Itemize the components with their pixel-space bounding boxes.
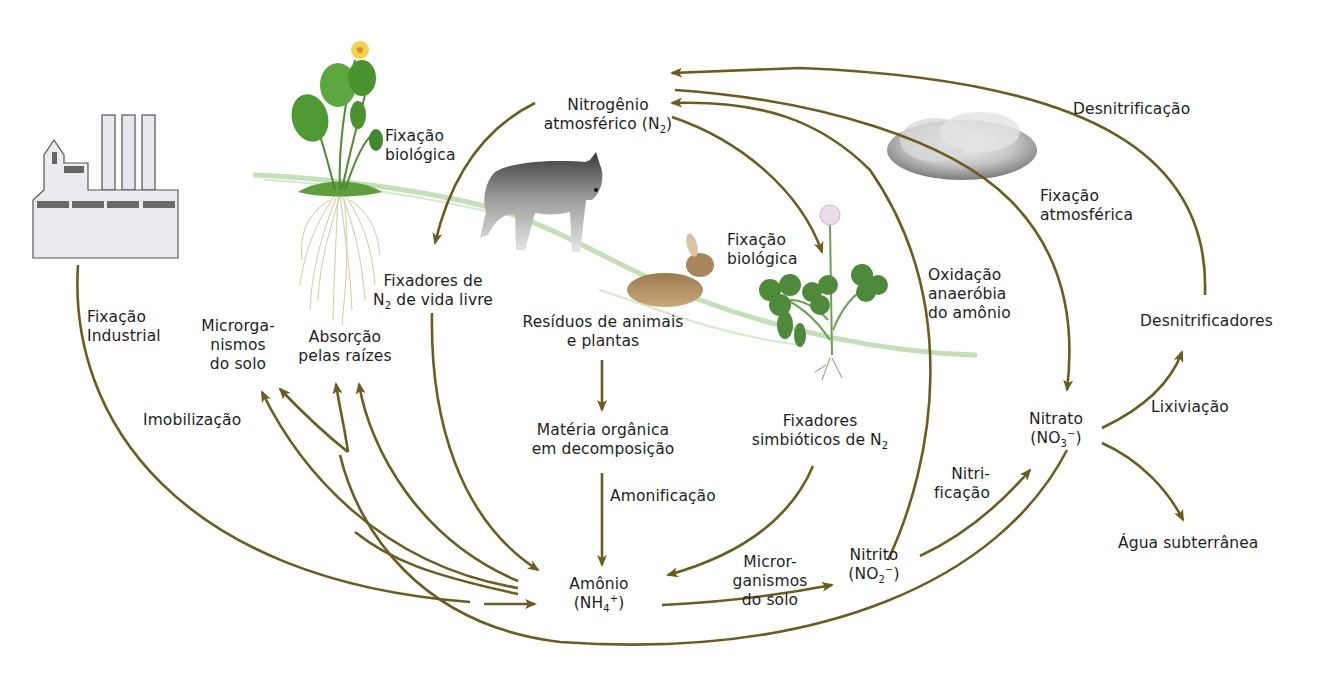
- node-residues: Resíduos de animais e plantas: [505, 313, 701, 351]
- rabbit: [627, 232, 714, 307]
- factory-icon: [33, 115, 178, 258]
- node-denitrifiers: Desnitrificadores: [1140, 312, 1273, 331]
- node-organic-matter: Matéria orgânica em decomposição: [515, 421, 691, 459]
- process-ammonification: Amonificação: [610, 487, 716, 506]
- arrow-groundwater: [1102, 443, 1183, 520]
- node-root-absorption: Absorção pelas raízes: [290, 328, 400, 366]
- node-nitrite: Nitrito (NO2−): [838, 546, 910, 584]
- node-groundwater: Água subterrânea: [1118, 534, 1258, 553]
- process-industrial-fixation: Fixação Industrial: [87, 308, 161, 346]
- node-symbiotic-fixers: Fixadores simbióticos de N2: [735, 412, 905, 450]
- process-biological-fixation-clover: Fixação biológica: [727, 231, 797, 269]
- wolf: [480, 152, 602, 252]
- arrow-immobilization-1: [262, 392, 518, 588]
- node-soil-microorganisms-left: Microrga- nismos do solo: [188, 317, 288, 374]
- process-nitrification: Nitri- ficação: [920, 465, 990, 503]
- process-atmospheric-fixation: Fixação atmosférica: [1040, 187, 1133, 225]
- process-immobilization: Imobilização: [143, 411, 241, 430]
- node-nitrate: Nitrato (NO3−): [1020, 410, 1092, 448]
- cloud: [887, 112, 1037, 180]
- node-free-living-fixers: Fixadores de N2 de vida livre: [368, 272, 498, 310]
- process-soil-microorganisms-mid: Micror- ganismos do solo: [730, 553, 810, 610]
- process-anammox: Oxidação anaeróbia do amônio: [928, 266, 1011, 323]
- process-denitrification: Desnitrificação: [1073, 100, 1190, 119]
- node-atmospheric-n2: Nitrogênio atmosférico (N2): [538, 96, 678, 134]
- process-biological-fixation-plant: Fixação biológica: [385, 127, 455, 165]
- process-leaching: Lixiviação: [1151, 398, 1229, 417]
- node-ammonium: Amônio (NH4+): [555, 575, 643, 613]
